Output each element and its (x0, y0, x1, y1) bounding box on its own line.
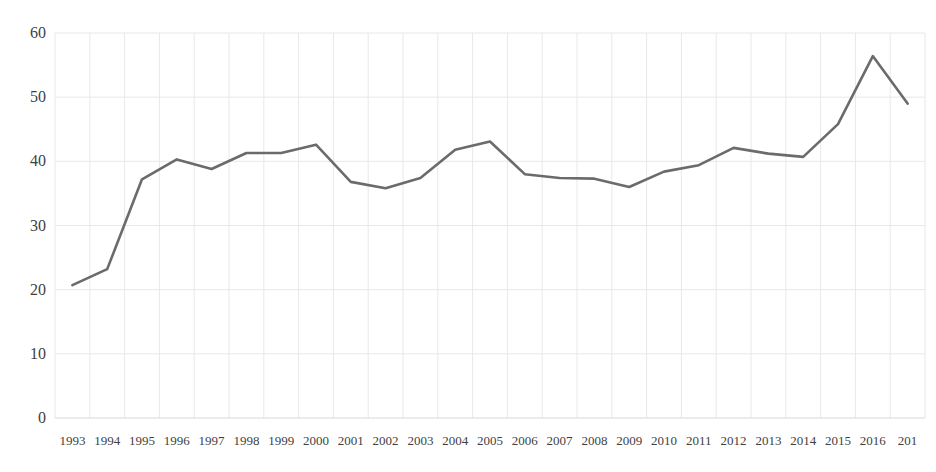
x-tick-label: 2005 (477, 434, 503, 447)
x-tick-label: 2007 (547, 434, 573, 447)
x-tick-label: 2013 (755, 434, 781, 447)
horizontal-gridlines (55, 33, 925, 354)
x-tick-label: 2011 (686, 434, 712, 447)
x-tick-label: 2016 (860, 434, 886, 447)
x-tick-label: 2014 (790, 434, 816, 447)
x-tick-label: 1995 (129, 434, 155, 447)
x-tick-label: 1999 (268, 434, 294, 447)
x-tick-label: 2001 (338, 434, 364, 447)
y-tick-label: 0 (4, 410, 46, 426)
y-tick-label: 60 (4, 25, 46, 41)
x-tick-label: 1997 (199, 434, 225, 447)
x-tick-label: 201 (898, 434, 918, 447)
y-tick-label: 40 (4, 153, 46, 169)
x-tick-label: 2004 (442, 434, 468, 447)
x-tick-label: 2015 (825, 434, 851, 447)
x-tick-label: 2012 (721, 434, 747, 447)
x-tick-label: 2009 (616, 434, 642, 447)
y-tick-label: 30 (4, 218, 46, 234)
x-tick-label: 2003 (407, 434, 433, 447)
x-tick-label: 2006 (512, 434, 538, 447)
x-tick-label: 1996 (164, 434, 190, 447)
x-tick-label: 1998 (233, 434, 259, 447)
y-tick-label: 50 (4, 89, 46, 105)
data-series-group (72, 56, 907, 285)
data-line-1 (72, 56, 907, 285)
x-tick-label: 1994 (94, 434, 120, 447)
y-axis-tick-labels: 0102030405060 (0, 0, 46, 472)
x-tick-label: 2008 (581, 434, 607, 447)
x-tick-label: 2002 (373, 434, 399, 447)
x-tick-label: 2000 (303, 434, 329, 447)
y-tick-label: 10 (4, 346, 46, 362)
x-axis-tick-labels: 1993199419951996199719981999200020012002… (0, 434, 936, 458)
y-tick-label: 20 (4, 282, 46, 298)
x-tick-label: 2010 (651, 434, 677, 447)
line-chart: 0102030405060 19931994199519961997199819… (0, 0, 936, 472)
chart-plot-area (0, 0, 936, 472)
x-tick-label: 1993 (59, 434, 85, 447)
